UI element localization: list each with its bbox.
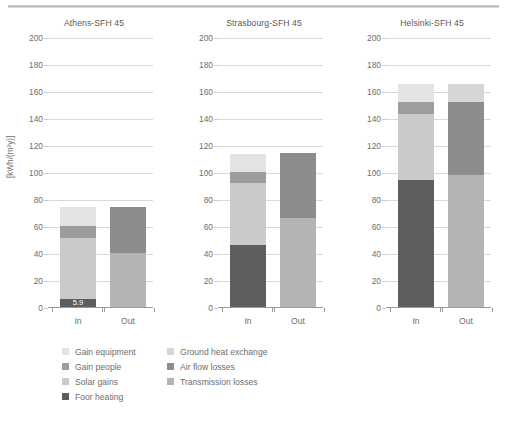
y-axis-tick-label: 200	[29, 33, 43, 43]
y-axis-tick-label: 20	[372, 276, 381, 286]
y-axis-tick-label: 180	[29, 60, 43, 70]
legend-item[interactable]: Transmission losses	[167, 374, 267, 389]
bar-segment[interactable]	[230, 172, 266, 183]
y-axis-tickmark	[382, 38, 386, 39]
y-axis-tickmark	[214, 38, 218, 39]
bar-segment[interactable]	[448, 102, 484, 175]
y-axis-tick-label: 60	[34, 222, 43, 232]
bar-segment[interactable]	[60, 238, 96, 299]
legend-item[interactable]: Gain people	[62, 359, 136, 374]
x-axis-tickmark	[272, 308, 273, 312]
bar-segment[interactable]	[230, 183, 266, 245]
legend-column-secondary: Ground heat exchangeAir flow lossesTrans…	[167, 344, 267, 389]
bar-segment[interactable]	[110, 207, 146, 253]
y-axis-tick-label: 0	[376, 303, 381, 313]
stacked-bar[interactable]: 5.9	[60, 207, 96, 307]
y-axis-tickmark	[382, 281, 386, 282]
y-axis-tick-label: 100	[367, 168, 381, 178]
x-axis-tickmark	[324, 308, 325, 312]
y-axis-tick-label: 40	[372, 249, 381, 259]
y-axis-tickmark	[44, 146, 48, 147]
y-axis-tick-label: 140	[367, 114, 381, 124]
x-axis-category-label: Out	[459, 316, 473, 326]
y-axis-tickmark	[44, 92, 48, 93]
x-axis-tickmark	[440, 308, 441, 312]
gridline	[48, 119, 153, 120]
y-axis-tickmark	[382, 92, 386, 93]
y-axis-tickmark	[214, 173, 218, 174]
x-axis-tickmark	[154, 308, 155, 312]
y-axis-tick-label: 120	[367, 141, 381, 151]
panel-title: Athens-SFH 45	[10, 18, 178, 28]
bar-segment[interactable]	[280, 218, 316, 307]
x-axis-tickmark	[492, 308, 493, 312]
bar-segment[interactable]	[448, 175, 484, 307]
legend-item-label: Gain people	[75, 362, 121, 372]
legend-item-label: Ground heat exchange	[180, 347, 267, 357]
y-axis-tick-label: 180	[199, 60, 213, 70]
y-axis-tickmark	[382, 65, 386, 66]
y-axis-tick-label: 60	[372, 222, 381, 232]
y-axis-tick-label: 80	[372, 195, 381, 205]
y-axis-tickmark	[382, 200, 386, 201]
x-axis-tickmark	[390, 308, 391, 312]
bar-segment[interactable]	[230, 245, 266, 307]
stacked-bar[interactable]	[110, 207, 146, 307]
x-axis-category-label: In	[74, 316, 81, 326]
bar-segment[interactable]	[398, 102, 434, 114]
y-axis-tickmark	[214, 119, 218, 120]
y-axis-tick-label: 160	[29, 87, 43, 97]
y-axis-tickmark	[44, 173, 48, 174]
chart-panel: Helsinki-SFH 450204060801001201401601802…	[348, 14, 507, 336]
x-axis-tickmark	[274, 308, 275, 312]
y-axis-tick-label: 140	[199, 114, 213, 124]
x-axis-category-label: Out	[291, 316, 305, 326]
legend-item-label: Gain equipment	[75, 347, 136, 357]
legend-item[interactable]: Air flow losses	[167, 359, 267, 374]
bar-segment[interactable]	[60, 207, 96, 226]
x-axis-tickmark	[104, 308, 105, 312]
legend-column-primary: Gain equipmentGain peopleSolar gains	[62, 344, 136, 389]
y-axis-tick-label: 80	[204, 195, 213, 205]
legend-item[interactable]: Foor heating	[62, 389, 123, 404]
bar-segment[interactable]	[110, 253, 146, 307]
gridline	[386, 65, 491, 66]
y-axis-tickmark	[44, 200, 48, 201]
header-divider	[8, 5, 499, 8]
y-axis-tickmark	[382, 146, 386, 147]
y-axis-tick-label: 0	[38, 303, 43, 313]
y-axis-tick-label: 40	[34, 249, 43, 259]
plot-area: 020406080100120140160180200InOut	[386, 38, 491, 308]
y-axis-tickmark	[44, 254, 48, 255]
y-axis-tickmark	[44, 119, 48, 120]
gridline	[48, 38, 153, 39]
legend-swatch-icon	[62, 378, 69, 385]
y-axis-tickmark	[44, 227, 48, 228]
bar-segment[interactable]	[448, 84, 484, 102]
legend-swatch-icon	[62, 393, 69, 400]
stacked-bar[interactable]	[280, 153, 316, 307]
legend-item[interactable]: Ground heat exchange	[167, 344, 267, 359]
legend-item[interactable]: Solar gains	[62, 374, 136, 389]
bar-segment[interactable]	[60, 226, 96, 238]
panel-title: Helsinki-SFH 45	[348, 18, 507, 28]
bar-segment[interactable]	[398, 84, 434, 102]
x-axis-line	[48, 307, 153, 308]
stacked-bar[interactable]	[230, 154, 266, 307]
legend-column-bottom: Foor heating	[62, 389, 123, 404]
y-axis-tick-label: 200	[199, 33, 213, 43]
bar-segment[interactable]	[280, 153, 316, 218]
y-axis-tick-label: 20	[34, 276, 43, 286]
bar-segment[interactable]	[230, 154, 266, 172]
panel-title: Strasbourg-SFH 45	[180, 18, 348, 28]
x-axis-category-label: In	[412, 316, 419, 326]
bar-segment[interactable]	[398, 180, 434, 307]
legend-item[interactable]: Gain equipment	[62, 344, 136, 359]
bar-segment[interactable]	[398, 114, 434, 180]
y-axis-tick-label: 120	[29, 141, 43, 151]
stacked-bar[interactable]	[448, 84, 484, 307]
stacked-bar[interactable]	[398, 84, 434, 307]
y-axis-tickmark	[214, 254, 218, 255]
x-axis-tickmark	[442, 308, 443, 312]
bar-segment[interactable]: 5.9	[60, 299, 96, 307]
